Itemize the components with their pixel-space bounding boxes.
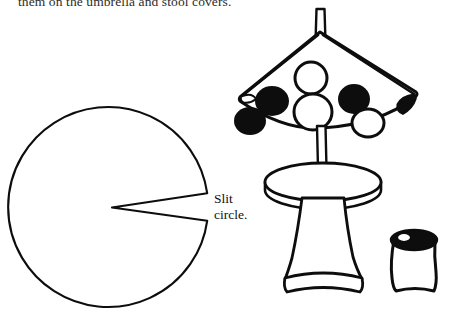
slit-circle-label-line2: circle. [214, 207, 284, 223]
slit-circle-label: Slit circle. [214, 191, 284, 222]
umbrella-dot-outlined-2 [294, 94, 332, 130]
slit-circle-outline [8, 107, 207, 307]
spool-pull-tab [397, 233, 411, 242]
illustration-page: them on the umbrella and stool covers. [0, 0, 457, 310]
slit-circle-label-line1: Slit [214, 191, 284, 207]
craft-diagram-figure [0, 0, 457, 310]
umbrella-dot-outlined-3 [352, 109, 384, 137]
stool-foot-rim [284, 273, 362, 292]
slit-circle-icon [8, 107, 207, 307]
stool-icon [265, 163, 381, 292]
stool-pedestal [285, 198, 362, 279]
umbrella-left-tip-crescent [241, 95, 256, 103]
umbrella-dot-outlined-1 [295, 62, 327, 94]
spool-icon [391, 230, 437, 291]
umbrella-dot-filled-2 [234, 107, 266, 135]
